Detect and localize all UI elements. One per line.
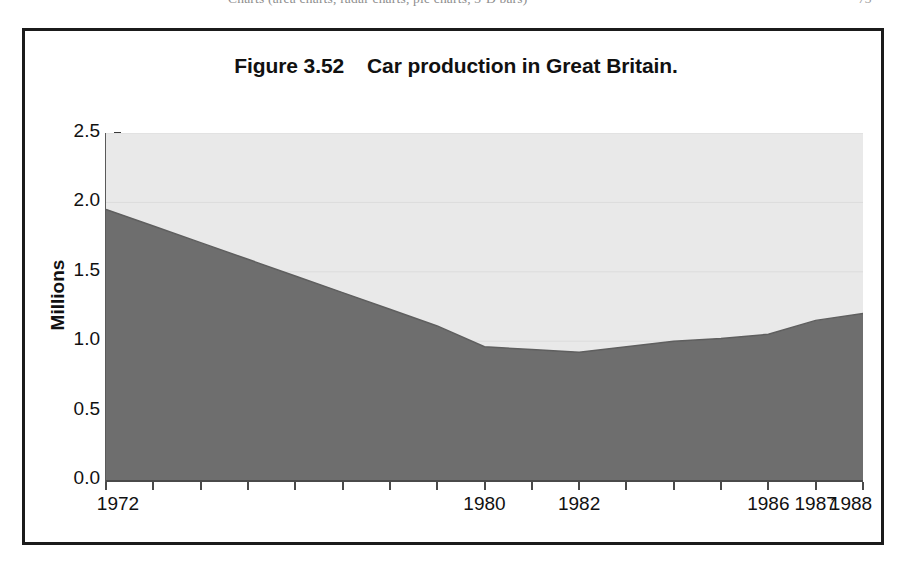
x-tick-mark [105,482,107,490]
x-tick-label: 1972 [97,493,139,515]
page-header-title: Charts (area charts, radar charts, pie c… [228,0,527,7]
x-tick-mark [862,482,864,490]
x-tick-label: 1982 [558,493,600,515]
x-tick-label: 1980 [463,493,505,515]
x-tick-mark [436,482,438,490]
x-tick-mark [342,482,344,490]
y-tick-label: 1.5 [48,259,100,281]
y-tick-label: 2.5 [48,120,100,142]
x-tick-mark [389,482,391,490]
x-tick-mark [815,482,817,490]
x-tick-label: 1986 [747,493,789,515]
x-tick-mark [578,482,580,490]
x-tick-mark [294,482,296,490]
x-tick-mark [720,482,722,490]
x-tick-mark [484,482,486,490]
y-tick-label: 2.0 [48,189,100,211]
x-tick-mark [625,482,627,490]
y-tick-label: 1.0 [48,328,100,350]
page-number: 73 [858,0,872,7]
x-tick-label: 1988 [830,493,872,515]
x-tick-mark [152,482,154,490]
page-header: Charts (area charts, radar charts, pie c… [0,0,908,14]
x-tick-mark [531,482,533,490]
area-chart: Millions 2.52.01.51.00.50.0 197219801982… [25,31,887,548]
y-axis-ticks: 2.52.01.51.00.50.0 [40,31,100,548]
y-tick-label: 0.5 [48,398,100,420]
area-series-svg [106,133,863,480]
x-tick-mark [247,482,249,490]
figure-frame: Figure 3.52 Car production in Great Brit… [22,28,884,545]
y-tick-label: 0.0 [48,467,100,489]
x-tick-mark [200,482,202,490]
x-tick-mark [767,482,769,490]
x-tick-mark [673,482,675,490]
plot-area [106,133,863,480]
